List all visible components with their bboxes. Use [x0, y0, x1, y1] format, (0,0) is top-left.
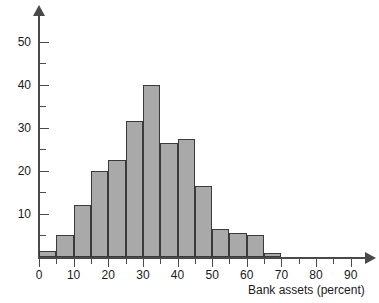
histogram-bar [247, 235, 264, 257]
histogram-bar [108, 160, 125, 257]
histogram-bar [160, 143, 177, 257]
histogram-bar [264, 253, 281, 257]
histogram-bar [74, 205, 91, 257]
x-axis-label: Bank assets (percent) [248, 283, 365, 297]
histogram-bars [0, 0, 379, 303]
histogram-bar [126, 121, 143, 257]
histogram-bar [178, 139, 195, 258]
histogram-bar [229, 233, 246, 257]
histogram-bar [91, 171, 108, 257]
histogram-bar [39, 251, 56, 257]
histogram-bar [212, 229, 229, 257]
histogram-bar [195, 186, 212, 257]
histogram-chart: 1020304050 0102030405060708090 Bank asse… [0, 0, 379, 303]
histogram-bar [143, 85, 160, 257]
histogram-bar [56, 235, 73, 257]
